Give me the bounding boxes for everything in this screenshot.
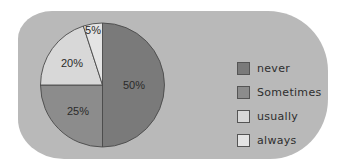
legend-item-never: never — [237, 56, 321, 80]
legend-swatch-sometimes — [237, 86, 250, 99]
legend-label: never — [257, 62, 290, 75]
legend-swatch-always — [237, 134, 250, 147]
legend-label: Sometimes — [257, 86, 321, 99]
legend-item-usually: usually — [237, 104, 321, 128]
slice-label-sometimes: 25% — [67, 105, 89, 117]
slice-label-usually: 20% — [61, 57, 83, 69]
slice-label-always: 5% — [85, 24, 101, 36]
legend-label: always — [257, 134, 297, 147]
legend-item-always: always — [237, 128, 321, 152]
legend-label: usually — [257, 110, 298, 123]
legend-swatch-usually — [237, 110, 250, 123]
legend-swatch-never — [237, 62, 250, 75]
legend-item-sometimes: Sometimes — [237, 80, 321, 104]
slice-label-never: 50% — [123, 79, 145, 91]
legend: never Sometimes usually always — [237, 56, 321, 152]
